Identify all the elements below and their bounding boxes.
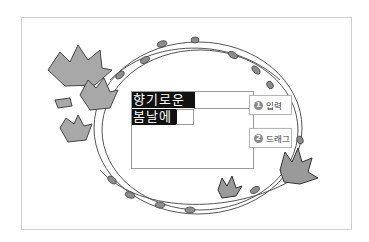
line-separator xyxy=(194,108,254,109)
callout-input: 1 입력 xyxy=(249,95,292,115)
text-cursor-area xyxy=(176,109,194,125)
text-line-1[interactable]: 향기로운 xyxy=(132,92,195,108)
text-line-2[interactable]: 봄날에 xyxy=(132,109,177,125)
callout-drag: 2 드래그 xyxy=(249,128,292,148)
callout-label: 드래그 xyxy=(266,132,290,144)
step-number-badge: 2 xyxy=(254,134,263,143)
callout-label: 입력 xyxy=(266,99,282,111)
step-number-badge: 1 xyxy=(254,101,263,110)
text-input-box[interactable]: 향기로운 봄날에 xyxy=(131,91,254,169)
